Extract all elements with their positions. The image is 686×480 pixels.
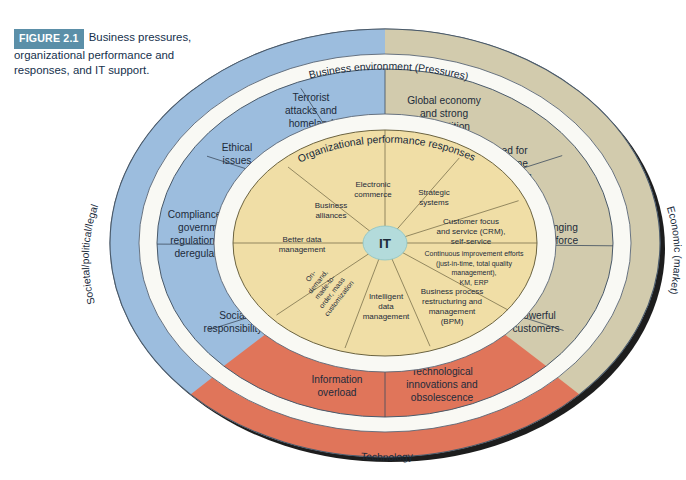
response-label-1: Strategicsystems (418, 188, 450, 207)
band-label-economic: Economic (market) (665, 205, 683, 296)
response-label-0: Electroniccommerce (354, 180, 392, 199)
it-center-label: IT (379, 236, 392, 251)
band-label-societal: Societal/political/legal (80, 203, 100, 306)
figure-caption: FIGURE 2.1Business pressures, organizati… (14, 28, 224, 79)
band-label-technology: Technology (361, 451, 415, 463)
figure-number-badge: FIGURE 2.1 (14, 29, 84, 49)
pressure-label-5: Technologicalinnovations andobsolescence (406, 366, 478, 403)
response-label-7: Better datamanagement (279, 235, 326, 254)
response-label-8: Businessalliances (315, 201, 347, 220)
responses-ring: Electroniccommerce Strategicsystems Cust… (233, 130, 537, 356)
figure-page: FIGURE 2.1Business pressures, organizati… (0, 0, 686, 480)
